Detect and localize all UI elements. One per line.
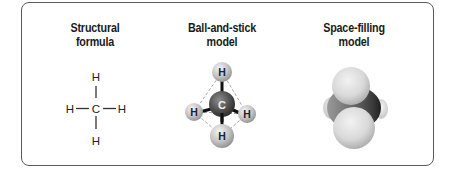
bs-h-top-label: H bbox=[218, 66, 226, 78]
ball-and-stick-model: H H H C H bbox=[185, 62, 256, 148]
struct-c-center: C bbox=[92, 103, 100, 115]
space-filling-model bbox=[323, 67, 388, 149]
sf-hydrogen-bottom bbox=[333, 107, 375, 149]
sf-hydrogen-top bbox=[332, 67, 370, 105]
bs-c-label: C bbox=[218, 99, 226, 111]
bs-h-bottom-label: H bbox=[218, 130, 226, 142]
bs-h-left-label: H bbox=[190, 106, 198, 118]
bs-h-right-label: H bbox=[243, 108, 251, 120]
struct-h-top: H bbox=[92, 71, 100, 83]
structural-formula: H H C H H bbox=[66, 71, 126, 147]
struct-h-bottom: H bbox=[92, 135, 100, 147]
struct-h-left: H bbox=[66, 103, 74, 115]
struct-h-right: H bbox=[118, 103, 126, 115]
